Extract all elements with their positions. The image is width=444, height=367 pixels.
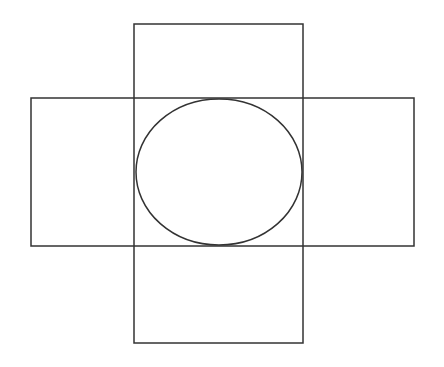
central-ellipse bbox=[136, 99, 302, 245]
vertical-rectangle bbox=[134, 24, 303, 343]
cross-diagram bbox=[0, 0, 444, 367]
horizontal-rectangle bbox=[31, 98, 414, 246]
